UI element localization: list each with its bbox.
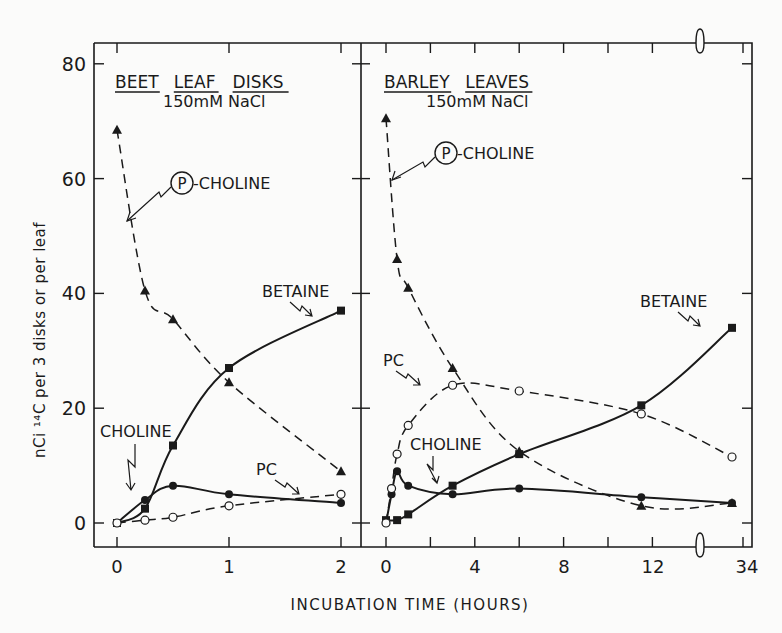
axis-break-bottom — [696, 533, 704, 557]
open-circle-marker — [637, 410, 645, 418]
left-p-choline-label: -CHOLINE — [193, 174, 270, 193]
y-tick-label: 0 — [74, 512, 86, 534]
zigzag-arrow-icon — [678, 312, 700, 326]
filled-circle-marker — [225, 490, 233, 498]
zigzag-arrow-icon — [127, 187, 171, 221]
triangle-marker — [112, 125, 122, 134]
right-betaine-label: BETAINE — [640, 292, 707, 311]
left-choline-label: CHOLINE — [100, 422, 172, 441]
zigzag-arrow-icon — [126, 444, 135, 490]
square-marker — [337, 307, 345, 315]
filled-circle-marker — [637, 493, 645, 501]
open-circle-marker — [382, 519, 390, 527]
zigzag-arrow-icon — [290, 302, 312, 316]
open-circle-marker — [225, 502, 233, 510]
open-circle-marker — [141, 516, 149, 524]
right-title-word: LEAVES — [465, 72, 529, 92]
open-circle-marker — [404, 421, 412, 429]
x-tick-label: 4 — [469, 556, 480, 577]
beet-leaf-disks-panel: 012 — [111, 43, 346, 577]
triangle-marker — [448, 363, 458, 372]
left-title-word: BEET — [115, 72, 159, 92]
triangle-marker — [403, 283, 413, 292]
x-tick-label: 12 — [642, 556, 665, 577]
open-circle-marker — [515, 387, 523, 395]
left-p-choline-p: P — [177, 175, 186, 193]
x-axis-label: INCUBATION TIME (HOURS) — [291, 596, 530, 614]
y-tick-label: 40 — [62, 282, 86, 304]
square-marker — [728, 324, 736, 332]
x-tick-label: 2 — [335, 556, 346, 577]
zigzag-arrow-icon — [275, 480, 299, 494]
zigzag-arrow-icon — [392, 157, 435, 180]
triangle-marker — [381, 113, 391, 122]
x-tick-label: 8 — [558, 556, 569, 577]
zigzag-arrow-icon — [427, 456, 439, 483]
triangle-marker — [392, 254, 402, 263]
filled-circle-marker — [728, 499, 736, 507]
y-tick-label: 80 — [62, 53, 86, 75]
filled-circle-marker — [337, 499, 345, 507]
x-tick-label: 0 — [111, 556, 122, 577]
open-circle-marker — [393, 450, 401, 458]
chart-figure: 020406080 012 0481234 BEETLEAFDISKS150mM… — [0, 0, 782, 633]
y-axis-label: nCi ¹⁴C per 3 disks or per leaf — [31, 222, 49, 458]
right-subtitle: 150mM NaCl — [426, 92, 528, 111]
right-p-choline-label: -CHOLINE — [457, 144, 534, 163]
filled-circle-marker — [515, 485, 523, 493]
filled-circle-marker — [141, 496, 149, 504]
open-circle-marker — [728, 453, 736, 461]
filled-circle-marker — [404, 482, 412, 490]
left-title-word: DISKS — [233, 72, 284, 92]
square-marker — [225, 364, 233, 372]
open-circle-marker — [169, 513, 177, 521]
open-circle-marker — [337, 490, 345, 498]
right-pc-label: PC — [383, 351, 404, 370]
x-tick-label: 1 — [223, 556, 234, 577]
right-title-word: BARLEY — [384, 72, 450, 92]
left-title-word: LEAF — [174, 72, 216, 92]
open-circle-marker — [388, 485, 396, 493]
square-marker — [141, 505, 149, 513]
right-choline-label: CHOLINE — [410, 435, 482, 454]
square-marker — [393, 516, 401, 524]
filled-circle-marker — [449, 490, 457, 498]
square-marker — [515, 450, 523, 458]
y-tick-label: 60 — [62, 168, 86, 190]
right-p-choline-p: P — [441, 145, 450, 163]
x-tick-label: 0 — [380, 556, 391, 577]
axis-break-top — [696, 29, 704, 53]
square-marker — [169, 442, 177, 450]
zigzag-arrow-icon — [396, 371, 420, 385]
y-tick-label: 20 — [62, 397, 86, 419]
square-marker — [637, 401, 645, 409]
x-tick-label: 34 — [736, 556, 759, 577]
left-betaine-label: BETAINE — [262, 282, 329, 301]
triangle-marker — [140, 286, 150, 295]
filled-circle-marker — [169, 482, 177, 490]
open-circle-marker — [113, 519, 121, 527]
open-circle-marker — [449, 381, 457, 389]
left-subtitle: 150mM NaCl — [163, 92, 265, 111]
square-marker — [449, 482, 457, 490]
square-marker — [404, 510, 412, 518]
left-pc-label: PC — [256, 460, 277, 479]
